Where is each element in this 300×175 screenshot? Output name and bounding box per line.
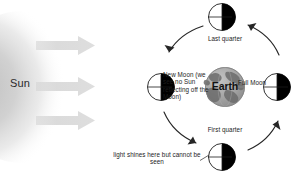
moon-top-label: Last quarter — [196, 35, 254, 42]
moon-right — [264, 74, 291, 101]
new-moon-annotation: New Moon (we see no Sun reflecting off t… — [163, 71, 211, 101]
light-shines-annotation: light shines here but cannot be seen — [113, 151, 201, 166]
moon-right-label: Full Moon — [238, 79, 266, 86]
moon-phases-diagram: Sun Earth Last quarter Full Moon First q… — [0, 0, 300, 175]
moon-bottom — [208, 144, 236, 171]
diagram-canvas — [0, 0, 300, 175]
moon-top — [208, 4, 236, 31]
moon-bottom-label: First quarter — [196, 126, 254, 133]
orbit-arrow-left-bottom — [164, 112, 196, 145]
sun-label: Sun — [10, 77, 30, 89]
